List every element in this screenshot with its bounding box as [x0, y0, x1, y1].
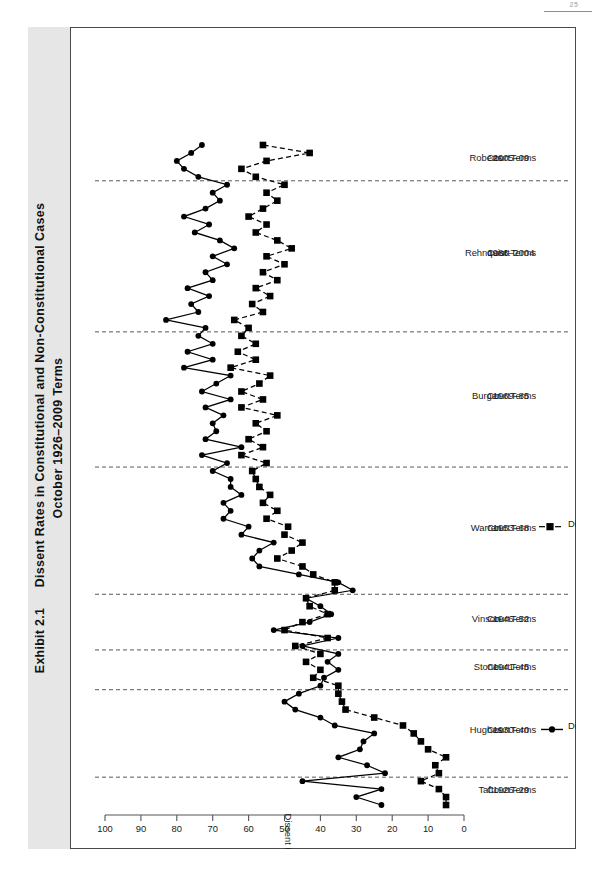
svg-text:80: 80 — [172, 823, 182, 834]
value-axis: 1009080706050403020100Dissent Rate (%) — [97, 814, 466, 849]
exhibit-title-line1: Dissent Rates in Constitutional and Non-… — [33, 203, 47, 587]
exhibit-title-rotated: Exhibit 2.1 Dissent Rates in Constitutio… — [28, 27, 71, 849]
court-era-dividers — [95, 181, 568, 777]
page-header-rule — [544, 11, 592, 12]
chart-legend: Dissent Rate in Constitutional CasesDiss… — [539, 518, 576, 733]
dissent-rate-line-chart: 1009080706050403020100Dissent Rate (%) T… — [71, 27, 576, 849]
svg-text:Terms: Terms — [511, 390, 537, 401]
svg-text:Terms: Terms — [511, 661, 537, 672]
chart-plot-area: 1009080706050403020100Dissent Rate (%) T… — [71, 27, 576, 849]
series-layer — [163, 142, 449, 809]
svg-text:0: 0 — [461, 823, 466, 834]
svg-text:10: 10 — [423, 823, 433, 834]
svg-text:Terms: Terms — [511, 152, 537, 163]
exhibit-title-line2: October 1926–2009 Terms — [51, 358, 65, 519]
svg-text:Terms: Terms — [511, 247, 537, 258]
court-era-labels: TaftCourt1926–29TermsHughesCourt1930–40T… — [465, 152, 537, 795]
svg-text:Terms: Terms — [511, 613, 537, 624]
svg-text:Dissent Rate (%): Dissent Rate (%) — [283, 814, 294, 849]
svg-text:Dissent Rate in Constitutional: Dissent Rate in Constitutional Cases — [568, 720, 576, 731]
svg-text:90: 90 — [136, 823, 146, 834]
svg-text:20: 20 — [387, 823, 397, 834]
svg-text:Terms: Terms — [511, 784, 537, 795]
svg-text:Terms: Terms — [511, 522, 537, 533]
svg-text:Terms: Terms — [511, 724, 537, 735]
page-number: 25 — [556, 1, 592, 8]
svg-text:70: 70 — [207, 823, 217, 834]
svg-text:40: 40 — [315, 823, 325, 834]
exhibit-label: Exhibit 2.1 — [33, 608, 47, 673]
svg-text:60: 60 — [243, 823, 253, 834]
svg-text:30: 30 — [351, 823, 361, 834]
svg-text:Dissent Rate in Non-Constituti: Dissent Rate in Non-Constitutional Cases — [568, 518, 576, 529]
svg-text:100: 100 — [97, 823, 113, 834]
